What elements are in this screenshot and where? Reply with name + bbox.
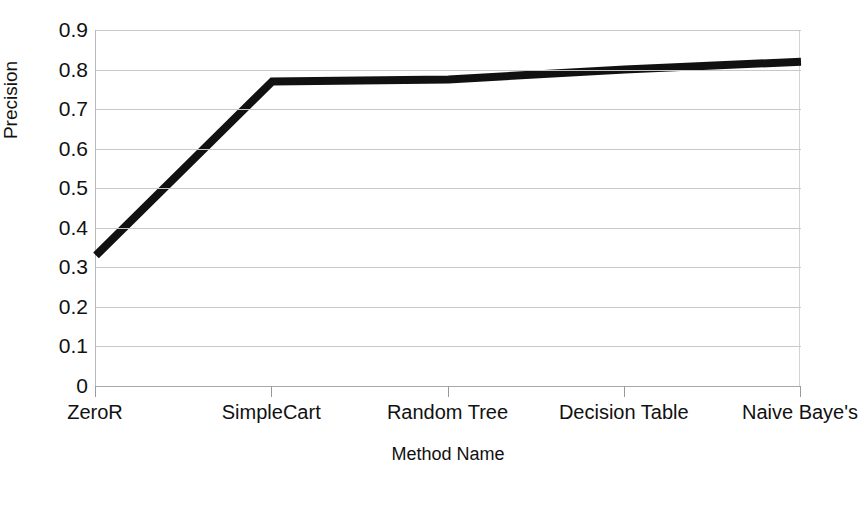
- x-axis-title: Method Name: [233, 444, 663, 465]
- gridline-y: [96, 346, 801, 347]
- x-axis-tick-mark: [624, 386, 625, 397]
- y-axis-title: Precision: [0, 20, 30, 180]
- plot-area: [95, 30, 800, 386]
- gridline-y: [96, 228, 801, 229]
- gridline-y: [96, 307, 801, 308]
- gridline-y: [96, 109, 801, 110]
- y-axis-tick-label: 0.2: [38, 296, 88, 317]
- x-axis-tick-mark: [271, 386, 272, 397]
- gridline-y: [96, 149, 801, 150]
- y-axis-tick-label-group: 00.10.20.30.40.50.60.70.80.9: [38, 0, 88, 531]
- gridline-y: [96, 386, 801, 387]
- x-axis-tick-mark: [95, 386, 96, 397]
- precision-line-chart: Precision 00.10.20.30.40.50.60.70.80.9 Z…: [0, 0, 866, 531]
- y-axis-tick-label: 0.4: [38, 217, 88, 238]
- y-axis-tick-label: 0.8: [38, 59, 88, 80]
- y-axis-tick-label: 0: [38, 375, 88, 396]
- series-line-precision: [96, 30, 801, 386]
- x-axis-tick-mark: [448, 386, 449, 397]
- x-axis-tick-label: Naive Baye's: [690, 400, 866, 424]
- y-axis-tick-label: 0.7: [38, 98, 88, 119]
- y-axis-tick-label: 0.5: [38, 177, 88, 198]
- gridline-y: [96, 188, 801, 189]
- gridline-y: [96, 70, 801, 71]
- y-axis-tick-label: 0.9: [38, 19, 88, 40]
- gridline-y: [96, 30, 801, 31]
- gridline-y: [96, 267, 801, 268]
- y-axis-tick-label: 0.1: [38, 335, 88, 356]
- x-axis-tick-mark: [800, 386, 801, 397]
- y-axis-tick-label: 0.6: [38, 138, 88, 159]
- y-axis-tick-label: 0.3: [38, 256, 88, 277]
